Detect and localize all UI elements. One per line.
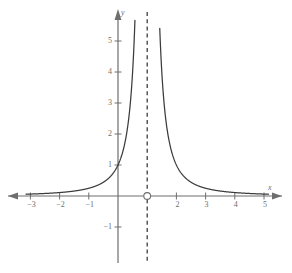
x-tick-label: −3: [25, 201, 37, 209]
x-tick-label: 3: [201, 201, 213, 209]
y-tick-label: 3: [98, 99, 112, 107]
x-tick-label: 5: [259, 201, 271, 209]
x-axis-arrow-right-icon: [272, 193, 282, 200]
y-axis: [115, 9, 122, 263]
y-tick-label: 4: [98, 68, 112, 76]
y-tick-label: 5: [98, 37, 112, 45]
open-circle-marker: [144, 193, 151, 200]
x-tick-label: −1: [84, 201, 96, 209]
y-axis-label: y: [121, 9, 125, 17]
x-tick-label: −2: [55, 201, 67, 209]
y-tick-label: 2: [98, 130, 112, 138]
chart-figure: x y −3−2−12345 −112345: [0, 0, 292, 273]
x-tick-label: 4: [230, 201, 242, 209]
y-tick-label: 1: [98, 161, 112, 169]
y-tick-label: −1: [98, 223, 112, 231]
curve-left-branch: [26, 20, 135, 194]
x-tick-label: 2: [171, 201, 183, 209]
x-axis-label: x: [268, 184, 272, 192]
x-axis-arrow-left-icon: [8, 193, 18, 200]
curve-right-branch: [160, 28, 269, 194]
function-plot: [0, 0, 292, 273]
